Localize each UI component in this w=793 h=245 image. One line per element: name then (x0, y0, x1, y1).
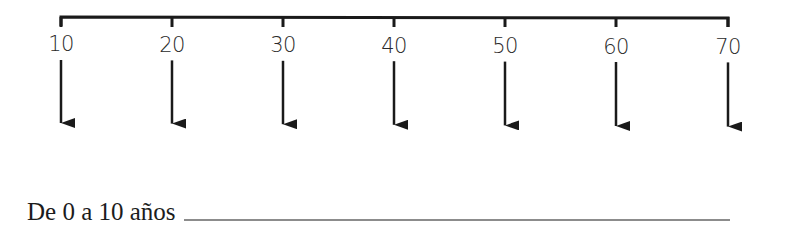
answer-row: De 0 a 10 años (27, 190, 730, 226)
tick-label: 10 (41, 32, 81, 56)
age-timeline-diagram: 10203040506070 De 0 a 10 años (0, 0, 793, 245)
tick-label: 20 (152, 33, 192, 57)
tick-label: 30 (263, 33, 303, 57)
answer-blank-line[interactable] (184, 219, 730, 221)
tick-label: 50 (485, 34, 525, 58)
tick-label: 60 (596, 35, 636, 59)
tick-label: 70 (708, 35, 748, 59)
tick-label: 40 (374, 34, 414, 58)
answer-prompt: De 0 a 10 años (27, 198, 176, 226)
